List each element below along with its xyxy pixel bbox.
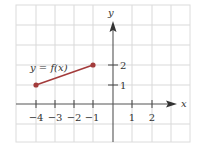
y-tick-label: 2 — [120, 60, 126, 71]
x-tick-label: −4 — [29, 112, 44, 123]
x-tick-label: 2 — [149, 112, 155, 123]
y-axis-label: y — [107, 7, 114, 18]
x-tick-label: −1 — [85, 112, 100, 123]
closed-endpoint-right — [90, 62, 95, 67]
y-tick-label: 1 — [120, 80, 126, 91]
x-axis-label: x — [181, 98, 187, 109]
closed-endpoint-left — [33, 82, 38, 87]
x-tick-label: −3 — [48, 112, 63, 123]
function-label: y = f(x) — [29, 62, 68, 73]
x-tick-label: −2 — [67, 112, 82, 123]
function-graph: −4 −3 −2 −1 1 2 2 1 x y y = f(x) — [0, 0, 204, 151]
x-tick-label: 1 — [129, 112, 135, 123]
